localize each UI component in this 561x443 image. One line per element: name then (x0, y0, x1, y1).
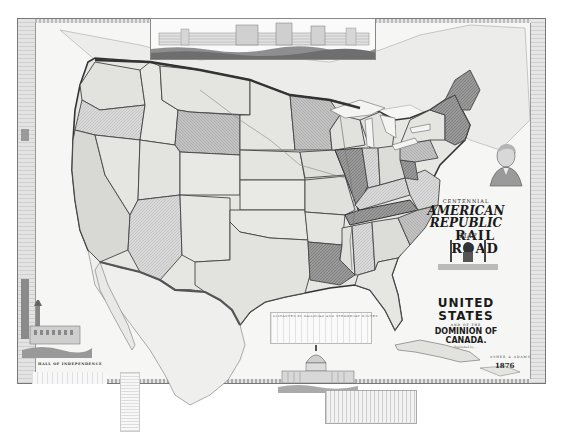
capitol-drawing (278, 345, 358, 393)
left-statistics-table (32, 372, 107, 384)
capitol-vignette (278, 345, 358, 393)
state-utah (138, 140, 180, 200)
state-arkansas (305, 212, 345, 245)
title-dominion: DOMINION OF CANADA. (420, 327, 512, 345)
state-new-mexico (180, 195, 230, 262)
title-map: MAP (459, 232, 477, 240)
exhibition-building-drawing (151, 19, 376, 60)
distance-table-title: DISTANCES BY RAILROAD AND STEAMBOAT ROUT… (273, 314, 378, 318)
state-nebraska (240, 150, 305, 180)
title-united-states: UNITED STATES (420, 297, 512, 323)
portrait-drawing (486, 138, 526, 188)
independence-hall-vignette (22, 300, 92, 360)
statistics-table (325, 390, 417, 424)
title-american-republic: AMERICAN REPUBLIC (420, 205, 512, 229)
locomotive-emblem: MAP (438, 230, 498, 270)
state-kansas (240, 180, 305, 210)
publisher-line: Published by ... (420, 345, 512, 349)
vignette-caption: HALL OF INDEPENDENCE (38, 362, 102, 366)
state-alabama (352, 222, 375, 275)
independence-hall-drawing (22, 300, 92, 360)
publisher-credit: ASHER & ADAMS (490, 355, 531, 359)
centennial-exhibition-panorama (150, 18, 376, 60)
state-wyoming (175, 110, 240, 155)
washington-portrait (486, 138, 526, 188)
small-column-table (120, 372, 140, 432)
state-colorado (180, 152, 240, 195)
title-cartouche: CENTENNIAL AMERICAN REPUBLIC RAIL ROAD M… (420, 198, 512, 368)
publication-year: 1876 (495, 361, 514, 370)
